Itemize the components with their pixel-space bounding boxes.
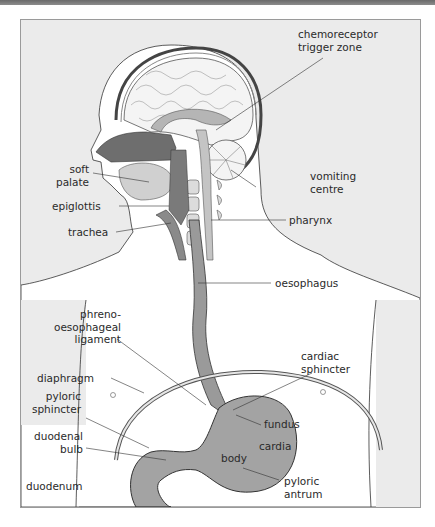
label-duodenal-bulb: duodenal bulb [26,430,83,455]
diagram-frame: chemoreceptor trigger zone vomiting cent… [20,19,421,508]
label-phreno-oesophageal-ligament: phreno- oesophageal ligament [41,308,121,346]
label-chemoreceptor-trigger-zone: chemoreceptor trigger zone [298,28,378,53]
label-trachea: trachea [68,226,108,239]
label-soft-palate: soft palate [39,163,89,188]
label-pharynx: pharynx [289,214,332,227]
label-fundus: fundus [264,418,300,431]
label-body: body [221,452,247,465]
label-vomiting-centre: vomiting centre [310,170,356,195]
label-pyloric-sphincter: pyloric sphincter [26,390,81,415]
label-cardia: cardia [259,440,291,453]
label-pyloric-antrum: pyloric antrum [284,475,322,500]
top-band [0,0,435,5]
label-epiglottis: epiglottis [52,200,101,213]
label-duodenum: duodenum [26,480,82,493]
pharynx-region [169,150,189,225]
label-cardiac-sphincter: cardiac sphincter [301,350,350,375]
label-oesophagus: oesophagus [275,277,338,290]
right-arm-area [376,300,420,507]
label-diaphragm: diaphragm [37,372,94,385]
